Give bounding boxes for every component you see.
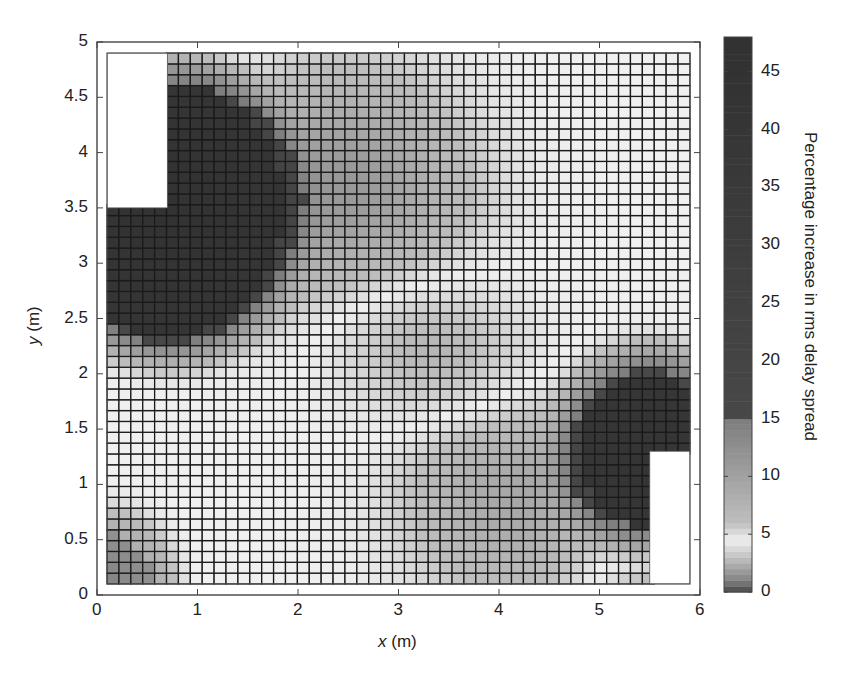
heatmap-cell — [178, 573, 190, 584]
heatmap-cell — [143, 476, 155, 487]
heatmap-cell — [226, 324, 238, 335]
heatmap-cell — [321, 107, 333, 118]
heatmap-cell — [416, 530, 428, 541]
heatmap-cell — [666, 270, 678, 281]
heatmap-cell — [214, 400, 226, 411]
heatmap-cell — [440, 205, 452, 216]
heatmap-cell — [393, 551, 405, 562]
heatmap-cell — [595, 96, 607, 107]
colorbar-segment — [724, 534, 752, 540]
heatmap-cell — [285, 96, 297, 107]
heatmap-cell — [464, 64, 476, 75]
heatmap-cell — [167, 237, 179, 248]
heatmap-cell — [119, 508, 131, 519]
heatmap-cell — [654, 107, 666, 118]
heatmap-cell — [678, 140, 690, 151]
heatmap-cell — [547, 346, 559, 357]
heatmap-cell — [630, 335, 642, 346]
heatmap-cell — [285, 140, 297, 151]
heatmap-cell — [452, 324, 464, 335]
heatmap-cell — [642, 335, 654, 346]
heatmap-cell — [369, 443, 381, 454]
heatmap-cell — [226, 400, 238, 411]
heatmap-cell — [440, 497, 452, 508]
heatmap-cell — [345, 508, 357, 519]
colorbar-segment — [724, 77, 752, 83]
heatmap-cell — [535, 324, 547, 335]
heatmap-cell — [214, 324, 226, 335]
heatmap-cell — [226, 270, 238, 281]
heatmap-cell — [393, 161, 405, 172]
heatmap-cell — [559, 151, 571, 162]
heatmap-cell — [262, 172, 274, 183]
heatmap-cell — [190, 248, 202, 259]
heatmap-cell — [393, 281, 405, 292]
heatmap-cell — [547, 129, 559, 140]
heatmap-cell — [333, 421, 345, 432]
heatmap-cell — [274, 86, 286, 97]
colorbar-segment — [724, 164, 752, 170]
heatmap-cell — [285, 508, 297, 519]
heatmap-cell — [321, 183, 333, 194]
heatmap-cell — [404, 140, 416, 151]
heatmap-cell — [333, 194, 345, 205]
heatmap-cell — [595, 118, 607, 129]
heatmap-cell — [678, 96, 690, 107]
colorbar-segment — [724, 43, 752, 49]
heatmap-cell — [119, 248, 131, 259]
heatmap-cell — [333, 172, 345, 183]
heatmap-cell — [571, 172, 583, 183]
heatmap-cell — [512, 530, 524, 541]
heatmap-cell — [452, 259, 464, 270]
heatmap-cell — [654, 129, 666, 140]
heatmap-cell — [571, 107, 583, 118]
colorbar-tick-label: 10 — [761, 465, 780, 485]
heatmap-cell — [476, 562, 488, 573]
heatmap-cell — [595, 378, 607, 389]
heatmap-cell — [250, 313, 262, 324]
heatmap-cell — [416, 172, 428, 183]
heatmap-cell — [262, 259, 274, 270]
heatmap-cell — [178, 291, 190, 302]
heatmap-cell — [155, 530, 167, 541]
heatmap-cell — [452, 205, 464, 216]
heatmap-cell — [404, 172, 416, 183]
heatmap-cell — [167, 508, 179, 519]
heatmap-cell — [178, 313, 190, 324]
heatmap-cell — [274, 541, 286, 552]
heatmap-cell — [119, 302, 131, 313]
heatmap-cell — [357, 324, 369, 335]
heatmap-cell — [619, 96, 631, 107]
heatmap-cell — [333, 432, 345, 443]
heatmap-cell — [297, 400, 309, 411]
heatmap-cell — [535, 486, 547, 497]
heatmap-cell — [523, 172, 535, 183]
heatmap-cell — [285, 486, 297, 497]
heatmap-cell — [178, 75, 190, 86]
heatmap-cell — [143, 508, 155, 519]
heatmap-cell — [381, 519, 393, 530]
heatmap-cell — [678, 270, 690, 281]
heatmap-cell — [607, 573, 619, 584]
heatmap-cell — [619, 335, 631, 346]
heatmap-cell — [274, 573, 286, 584]
heatmap-cell — [369, 313, 381, 324]
heatmap-cell — [285, 205, 297, 216]
colorbar-segment — [724, 390, 752, 396]
heatmap-cell — [440, 443, 452, 454]
heatmap-cell — [571, 497, 583, 508]
heatmap-cell — [333, 226, 345, 237]
heatmap-cell — [119, 411, 131, 422]
heatmap-cell — [285, 107, 297, 118]
heatmap-cell — [369, 96, 381, 107]
heatmap-cell — [595, 562, 607, 573]
heatmap-cell — [345, 183, 357, 194]
heatmap-cell — [512, 118, 524, 129]
heatmap-cell — [202, 486, 214, 497]
heatmap-cell — [369, 64, 381, 75]
heatmap-cell — [202, 64, 214, 75]
heatmap-cell — [547, 53, 559, 64]
heatmap-cell — [345, 194, 357, 205]
heatmap-cell — [119, 378, 131, 389]
heatmap-cell — [357, 161, 369, 172]
